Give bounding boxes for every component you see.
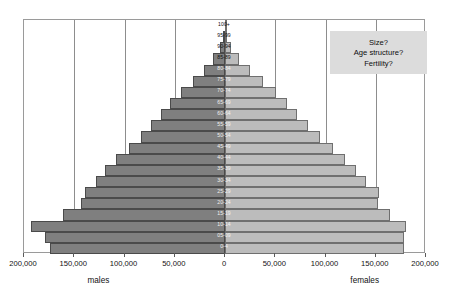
bar-female-50-54 bbox=[225, 131, 320, 142]
bar-female-25-29 bbox=[225, 187, 379, 198]
axis-label-females: females bbox=[350, 276, 379, 285]
age-label-70-74: 70-74 bbox=[217, 89, 231, 94]
x-tick bbox=[425, 253, 426, 257]
x-tick bbox=[174, 253, 175, 257]
x-tick-label: 150,000 bbox=[60, 259, 87, 268]
callout-line-1: Age structure? bbox=[354, 48, 403, 57]
bar-female-45-49 bbox=[225, 143, 333, 154]
bar-male-05-09 bbox=[45, 232, 225, 243]
x-tick-label: 50,000 bbox=[263, 259, 286, 268]
x-tick bbox=[224, 253, 225, 257]
age-label-90-94: 90-94 bbox=[217, 44, 231, 49]
bar-male-15-19 bbox=[63, 209, 225, 220]
bar-female-55-59 bbox=[225, 120, 308, 131]
age-label-45-49: 45-49 bbox=[217, 145, 231, 150]
bar-male-60-64 bbox=[161, 109, 225, 120]
x-tick bbox=[73, 253, 74, 257]
age-label-20-24: 20-24 bbox=[217, 200, 231, 205]
x-tick bbox=[124, 253, 125, 257]
bar-female-15-19 bbox=[225, 209, 390, 220]
x-tick-label: 200,000 bbox=[9, 259, 36, 268]
population-pyramid-figure: 200,000150,000100,00050,000050,000100,00… bbox=[0, 0, 458, 301]
bar-female-0-4 bbox=[225, 243, 404, 254]
bar-male-25-29 bbox=[85, 187, 225, 198]
age-label-40-44: 40-44 bbox=[217, 156, 231, 161]
bar-male-10-14 bbox=[31, 221, 225, 232]
axis-label-males: males bbox=[87, 276, 109, 285]
bar-female-70-74 bbox=[225, 87, 276, 98]
x-tick-label: 200,000 bbox=[411, 259, 438, 268]
age-label-65-69: 65-69 bbox=[217, 100, 231, 105]
bar-male-0-4 bbox=[50, 243, 225, 254]
callout-box: Size? Age structure? Fertility? bbox=[330, 31, 427, 74]
x-tick bbox=[325, 253, 326, 257]
bar-male-50-54 bbox=[141, 131, 225, 142]
x-tick bbox=[375, 253, 376, 257]
bar-female-40-44 bbox=[225, 154, 345, 165]
bar-female-60-64 bbox=[225, 109, 297, 120]
bar-female-30-34 bbox=[225, 176, 366, 187]
bar-male-20-24 bbox=[81, 198, 225, 209]
bar-female-20-24 bbox=[225, 198, 378, 209]
age-label-50-54: 50-54 bbox=[217, 133, 231, 138]
bar-male-35-39 bbox=[105, 165, 225, 176]
bar-female-35-39 bbox=[225, 165, 356, 176]
x-tick-label: 100,000 bbox=[311, 259, 338, 268]
age-label-10-14: 10-14 bbox=[217, 223, 231, 228]
x-tick-label: 50,000 bbox=[162, 259, 185, 268]
age-label-75-79: 75-79 bbox=[217, 78, 231, 83]
bar-male-30-34 bbox=[96, 176, 225, 187]
age-label-55-59: 55-59 bbox=[217, 122, 231, 127]
callout-line-2: Fertility? bbox=[364, 59, 393, 68]
age-label-05-09: 05-09 bbox=[217, 234, 231, 239]
age-label-35-39: 35-39 bbox=[217, 167, 231, 172]
age-label-15-19: 15-19 bbox=[217, 211, 231, 216]
x-tick-label: 150,000 bbox=[361, 259, 388, 268]
x-tick-label: 100,000 bbox=[110, 259, 137, 268]
bar-female-10-14 bbox=[225, 221, 406, 232]
age-label-0-4: 0-4 bbox=[220, 245, 228, 250]
age-label-80-84: 80-84 bbox=[217, 67, 231, 72]
x-tick-label: 0 bbox=[222, 259, 226, 268]
age-label-85-89: 85-89 bbox=[217, 55, 231, 60]
age-label-30-34: 30-34 bbox=[217, 178, 231, 183]
x-tick bbox=[23, 253, 24, 257]
x-tick bbox=[274, 253, 275, 257]
callout-line-0: Size? bbox=[369, 38, 388, 47]
bar-female-65-69 bbox=[225, 98, 287, 109]
age-label-100+: 100+ bbox=[218, 22, 230, 27]
bar-male-55-59 bbox=[151, 120, 225, 131]
bar-female-05-09 bbox=[225, 232, 404, 243]
age-label-60-64: 60-64 bbox=[217, 111, 231, 116]
age-label-25-29: 25-29 bbox=[217, 189, 231, 194]
bar-male-45-49 bbox=[129, 143, 225, 154]
age-label-95-99: 95-99 bbox=[217, 33, 231, 38]
bar-male-40-44 bbox=[116, 154, 225, 165]
